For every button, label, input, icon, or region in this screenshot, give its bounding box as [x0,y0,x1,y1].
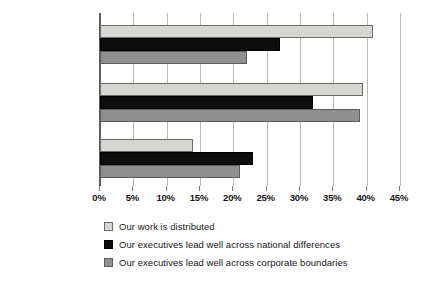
bar [100,83,363,96]
bar [100,25,373,38]
x-tick-label: 25% [256,192,274,203]
bar [100,139,193,152]
gridline [333,13,334,186]
legend-item: Our executives lead well across corporat… [104,254,404,270]
x-tick [399,186,400,191]
legend-swatch-black-icon [104,240,113,249]
x-axis: 0%5%10%15%20%25%30%35%40%45% [99,186,399,187]
x-tick [99,186,100,191]
x-tick-label: 35% [323,192,341,203]
legend-item: Our work is distributed [104,218,404,234]
legend-swatch-gray-icon [104,258,113,267]
bar [100,109,360,122]
x-tick [199,186,200,191]
x-tick-label: 45% [390,192,408,203]
x-tick-label: 15% [190,192,208,203]
plot-area [99,13,399,186]
x-tick [299,186,300,191]
legend-item-label: Our executives lead well across corporat… [119,257,348,268]
x-tick [266,186,267,191]
x-tick-label: 40% [356,192,374,203]
x-tick [366,186,367,191]
x-tick [166,186,167,191]
x-tick-label: 0% [92,192,105,203]
x-tick [332,186,333,191]
bar [100,152,253,165]
bar [100,51,247,64]
legend-swatch-light-icon [104,222,113,231]
x-tick-label: 30% [290,192,308,203]
legend-item-label: Our executives lead well across national… [119,239,340,250]
x-tick-label: 20% [223,192,241,203]
bar [100,165,240,178]
x-tick-label: 5% [126,192,139,203]
gridline [400,13,401,186]
bar [100,38,280,51]
legend: Our work is distributed Our executives l… [104,218,404,272]
legend-item-label: Our work is distributed [119,221,215,232]
gridline [367,13,368,186]
x-tick [132,186,133,191]
x-tick [232,186,233,191]
bar [100,96,313,109]
x-tick-label: 10% [156,192,174,203]
legend-item: Our executives lead well across national… [104,236,404,252]
bar-chart: Strongly agreeAgreeSomewhat agree 0%5%10… [0,0,421,283]
